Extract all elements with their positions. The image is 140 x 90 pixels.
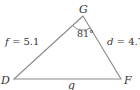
vertex-label-d: D	[0, 74, 10, 87]
triangle-dgf	[14, 16, 121, 79]
side-f-value: 5.1	[23, 36, 39, 47]
vertex-label-g: G	[79, 3, 88, 16]
side-label-g: g	[68, 79, 75, 90]
side-label-f: f = 5.1	[4, 36, 39, 47]
side-d-value: 4.7	[128, 36, 140, 47]
vertex-label-f: F	[123, 74, 132, 87]
side-d-eq: =	[113, 36, 128, 47]
triangle-diagram: G D F 81° f = 5.1 d = 4.7 g	[0, 0, 140, 90]
side-f-eq: =	[9, 36, 24, 47]
angle-label-g: 81°	[77, 28, 94, 39]
side-label-d: d = 4.7	[107, 36, 140, 47]
